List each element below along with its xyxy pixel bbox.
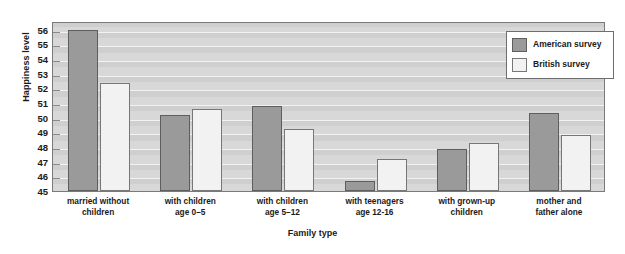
bar-american [529,113,559,191]
x-axis-category-label: with childrenage 5–12 [236,196,328,218]
y-axis-tick-mark [53,134,60,135]
plot-grid-band [53,23,604,27]
x-axis-category-label: with childrenage 0–5 [144,196,236,218]
y-axis-tick-label: 47 [20,158,48,168]
y-axis-tick-mark [53,76,60,77]
x-axis-category-label-line: with teenagers [329,196,421,207]
x-axis-category-label-line: father alone [513,207,605,218]
bar-british [284,129,314,191]
bar-american [252,106,282,191]
legend-item: British survey [512,56,608,73]
bar-american [437,149,467,192]
x-axis-category-label: with grown-upchildren [421,196,513,218]
y-axis-tick-mark [53,90,60,91]
legend-item: American survey [512,36,608,53]
bar-american [160,115,190,191]
legend-swatch-american [512,38,527,52]
bar-chart-figure: Happiness level 454647484950515253545556… [0,0,625,254]
y-axis-tick-mark [53,149,60,150]
y-axis-tick-labels: 454647484950515253545556 [20,22,48,192]
bar-british [469,143,499,191]
plot-gridline [53,164,604,165]
bar-american [345,181,375,191]
x-axis-category-label: mother andfather alone [513,196,605,218]
bar-american [68,30,98,191]
y-axis-tick-mark [53,61,60,62]
plot-gridline [53,178,604,179]
x-axis-category-label-line: mother and [513,196,605,207]
x-axis-category-label-line: age 0–5 [144,207,236,218]
plot-gridline [53,105,604,106]
x-axis-title: Family type [0,228,625,238]
bar-british [377,159,407,191]
y-axis-tick-mark [53,120,60,121]
y-axis-tick-label: 49 [20,129,48,139]
y-axis-tick-mark [53,46,60,47]
y-axis-tick-mark [53,164,60,165]
bar-british [192,109,222,191]
bar-british [100,83,130,191]
y-axis-tick-label: 48 [20,143,48,153]
x-axis-category-label-line: children [52,207,144,218]
x-axis-category-labels: married withoutchildrenwith childrenage … [52,196,605,226]
chart-legend: American surveyBritish survey [506,31,614,79]
y-axis-tick-label: 51 [20,99,48,109]
x-axis-category-label-line: children [421,207,513,218]
y-axis-tick-mark [53,32,60,33]
y-axis-tick-label: 45 [20,187,48,197]
y-axis-tick-label: 53 [20,70,48,80]
y-axis-tick-label: 50 [20,114,48,124]
legend-label: American survey [533,40,602,49]
legend-swatch-british [512,58,527,72]
plot-gridline [53,149,604,150]
y-axis-tick-label: 55 [20,41,48,51]
plot-gridline [53,120,604,121]
y-axis-tick-label: 46 [20,173,48,183]
y-axis-tick-mark [53,105,60,106]
y-axis-tick-label: 54 [20,55,48,65]
plot-gridline [53,134,604,135]
x-axis-category-label-line: with children [144,196,236,207]
x-axis-category-label: with teenagersage 12-16 [329,196,421,218]
x-axis-category-label-line: age 12-16 [329,207,421,218]
y-axis-tick-mark [53,178,60,179]
y-axis-tick-label: 52 [20,85,48,95]
x-axis-category-label-line: with children [236,196,328,207]
x-axis-category-label-line: married without [52,196,144,207]
x-axis-category-label: married withoutchildren [52,196,144,218]
legend-label: British survey [533,60,590,69]
plot-gridline [53,90,604,91]
y-axis-tick-label: 56 [20,26,48,36]
x-axis-category-label-line: age 5–12 [236,207,328,218]
bar-british [561,135,591,191]
x-axis-category-label-line: with grown-up [421,196,513,207]
